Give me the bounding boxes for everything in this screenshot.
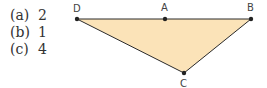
point-d bbox=[75, 17, 79, 21]
point-a bbox=[163, 17, 167, 21]
point-b bbox=[249, 17, 253, 21]
label-d: D bbox=[73, 3, 81, 14]
label-c: C bbox=[180, 78, 187, 88]
triangle-dbc bbox=[77, 19, 251, 73]
point-c bbox=[182, 71, 186, 75]
triangle-figure: D A B C bbox=[0, 0, 267, 88]
label-b: B bbox=[247, 2, 254, 13]
label-a: A bbox=[161, 2, 168, 13]
